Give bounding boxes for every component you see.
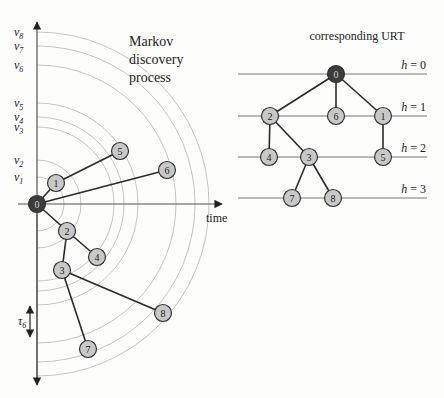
discovery-node-3: 3 <box>54 262 71 279</box>
svg-text:8: 8 <box>331 193 336 204</box>
arc-label-v5: v5 <box>14 96 23 112</box>
time-axis-label: time <box>206 211 227 225</box>
svg-text:1: 1 <box>381 111 386 122</box>
svg-text:1: 1 <box>54 178 59 189</box>
arc-label-v1: v1 <box>14 170 23 186</box>
urt-node-7: 7 <box>284 190 301 207</box>
svg-text:4: 4 <box>95 252 100 263</box>
arc-label-v8: v8 <box>14 25 23 41</box>
svg-text:4: 4 <box>267 152 272 163</box>
discovery-nodes: 015624387 <box>29 143 176 358</box>
svg-text:3: 3 <box>60 265 65 276</box>
diagram-canvas: time v1v2v3v4v5v6v7v8 Markov discovery p… <box>0 0 444 398</box>
urt-edge-0-1 <box>336 74 383 116</box>
urt-level-label-2: h = 2 <box>401 141 426 155</box>
markov-title-line-2: discovery <box>129 52 183 67</box>
urt-node-6: 6 <box>328 108 345 125</box>
markov-title-line-1: Markov <box>129 34 173 49</box>
urt-edge-0-2 <box>270 74 336 116</box>
svg-text:6: 6 <box>334 111 339 122</box>
arc-label-v2: v2 <box>14 153 23 169</box>
svg-text:0: 0 <box>334 69 339 80</box>
discovery-node-7: 7 <box>80 341 97 358</box>
urt-node-4: 4 <box>261 149 278 166</box>
arc-label-v6: v6 <box>14 58 23 74</box>
discovery-edge-1-5 <box>56 151 120 183</box>
urt-title: corresponding URT <box>310 29 406 43</box>
urt-node-0: 0 <box>328 66 345 83</box>
discovery-node-8: 8 <box>155 305 172 322</box>
urt-node-5: 5 <box>375 149 392 166</box>
urt-node-1: 1 <box>375 108 392 125</box>
discovery-node-0: 0 <box>29 196 46 213</box>
urt-edges <box>269 74 383 198</box>
urt-node-3: 3 <box>301 149 318 166</box>
discovery-node-4: 4 <box>89 249 106 266</box>
svg-text:3: 3 <box>307 152 312 163</box>
svg-text:8: 8 <box>161 308 166 319</box>
svg-text:2: 2 <box>268 111 273 122</box>
urt-level-label-1: h = 1 <box>401 100 426 114</box>
markov-title-line-3: process <box>129 70 171 85</box>
svg-text:5: 5 <box>118 146 123 157</box>
svg-text:0: 0 <box>35 199 40 210</box>
discovery-edge-3-8 <box>62 270 163 313</box>
discovery-node-2: 2 <box>59 223 76 240</box>
discovery-node-6: 6 <box>159 162 176 179</box>
arc-label-v7: v7 <box>14 39 24 55</box>
discovery-node-5: 5 <box>112 143 129 160</box>
markov-title: Markov discovery process <box>129 34 187 85</box>
arc-labels: v1v2v3v4v5v6v7v8 <box>14 25 24 186</box>
tau-label: τ6 <box>18 314 26 330</box>
svg-text:5: 5 <box>381 152 386 163</box>
urt-node-2: 2 <box>262 108 279 125</box>
discovery-node-1: 1 <box>48 175 65 192</box>
urt-node-8: 8 <box>325 190 342 207</box>
diagram-svg: time v1v2v3v4v5v6v7v8 Markov discovery p… <box>0 0 444 398</box>
urt-level-label-0: h = 0 <box>401 58 426 72</box>
svg-text:6: 6 <box>165 165 170 176</box>
arc-label-v4: v4 <box>14 110 23 126</box>
svg-text:2: 2 <box>65 226 70 237</box>
svg-text:7: 7 <box>86 344 91 355</box>
svg-text:7: 7 <box>290 193 295 204</box>
urt-level-label-3: h = 3 <box>401 182 426 196</box>
